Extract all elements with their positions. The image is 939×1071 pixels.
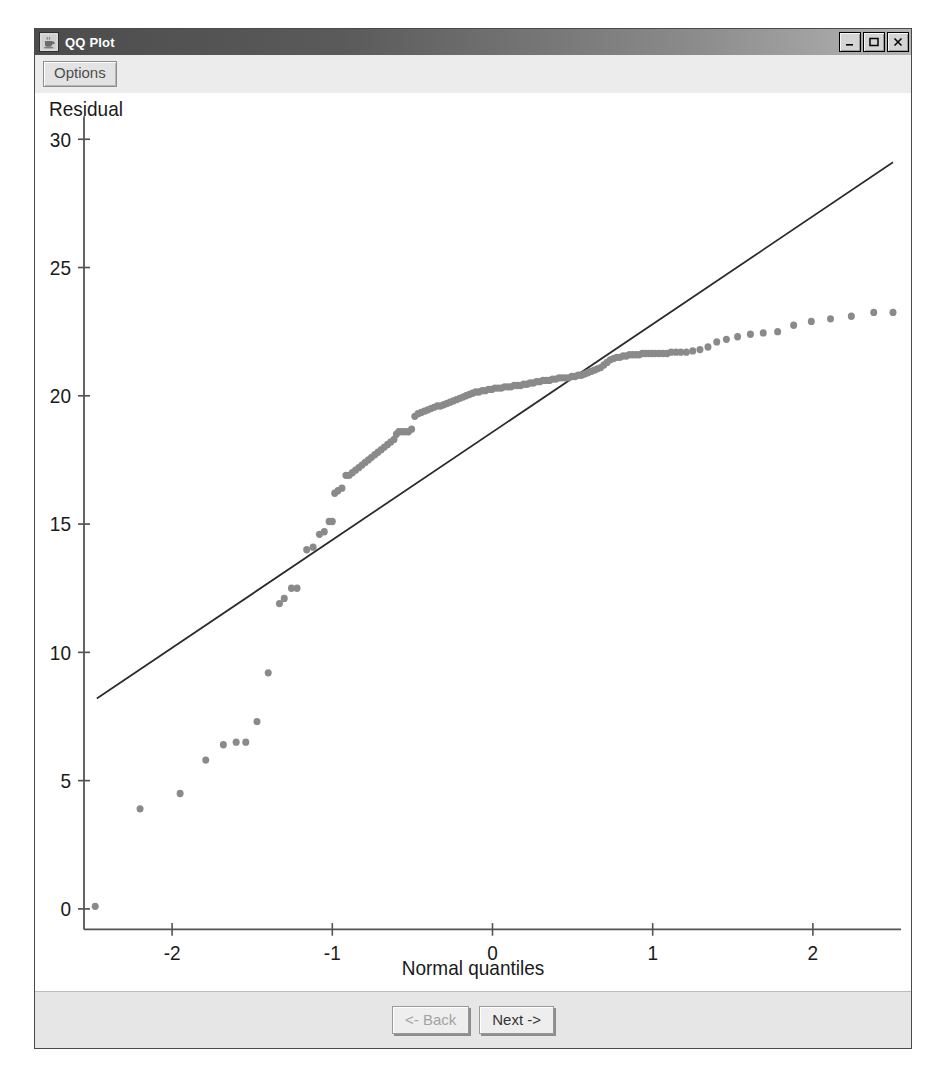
- data-point: [689, 347, 696, 354]
- data-point: [696, 345, 703, 352]
- data-point: [760, 329, 767, 336]
- data-point: [704, 343, 711, 350]
- data-point: [242, 738, 249, 745]
- java-coffee-cup-icon: [39, 32, 59, 52]
- data-point: [338, 484, 345, 491]
- y-tick-label: 0: [60, 897, 71, 920]
- x-tick-label: -2: [164, 941, 181, 964]
- maximize-button[interactable]: [863, 32, 885, 52]
- data-point: [92, 902, 99, 909]
- data-point: [827, 315, 834, 322]
- data-point: [774, 327, 781, 334]
- data-point: [408, 425, 415, 432]
- x-tick-label: 1: [647, 941, 658, 964]
- data-point: [220, 741, 227, 748]
- options-button[interactable]: Options: [43, 61, 117, 87]
- data-point: [137, 805, 144, 812]
- x-axis-label: Normal quantiles: [402, 956, 545, 979]
- qq-plot-chart: Residual 051015202530 -2-1012 Normal qua…: [35, 93, 911, 992]
- data-point: [254, 717, 261, 724]
- data-point: [723, 335, 730, 342]
- screenshot-root: QQ Plot Options Residual 051015202530 -2…: [0, 0, 939, 1071]
- data-point: [790, 321, 797, 328]
- data-point: [202, 756, 209, 763]
- data-point: [734, 333, 741, 340]
- qq-plot-window: QQ Plot Options Residual 051015202530 -2…: [34, 28, 912, 1049]
- data-point: [233, 738, 240, 745]
- qq-plot-svg: Residual 051015202530 -2-1012 Normal qua…: [35, 93, 911, 992]
- y-tick-label: 5: [60, 769, 71, 792]
- minimize-button[interactable]: [839, 32, 861, 52]
- data-point: [713, 338, 720, 345]
- data-point: [848, 312, 855, 319]
- next-button[interactable]: Next ->: [479, 1006, 554, 1034]
- data-point: [281, 594, 288, 601]
- toolbar: Options: [35, 55, 911, 93]
- data-point: [870, 308, 877, 315]
- y-axis-label: Residual: [49, 97, 123, 120]
- data-point: [889, 308, 896, 315]
- y-tick-label: 10: [50, 641, 71, 664]
- x-tick-label: 2: [808, 941, 819, 964]
- y-tick-label: 20: [50, 384, 71, 407]
- y-tick-label: 25: [50, 256, 71, 279]
- plot-background: [35, 93, 911, 992]
- y-tick-label: 30: [50, 128, 71, 151]
- data-point: [177, 789, 184, 796]
- window-titlebar: QQ Plot: [35, 29, 911, 55]
- data-point: [683, 348, 690, 355]
- window-title: QQ Plot: [65, 35, 837, 50]
- data-point: [329, 517, 336, 524]
- data-point: [265, 669, 272, 676]
- y-tick-label: 15: [50, 512, 71, 535]
- data-point: [747, 330, 754, 337]
- data-point: [303, 546, 310, 553]
- data-point: [294, 584, 301, 591]
- data-point: [321, 528, 328, 535]
- data-point: [310, 543, 317, 550]
- navigation-bar: <- Back Next ->: [35, 991, 911, 1048]
- x-tick-label: -1: [324, 941, 341, 964]
- back-button[interactable]: <- Back: [392, 1006, 469, 1034]
- data-point: [808, 317, 815, 324]
- close-button[interactable]: [887, 32, 909, 52]
